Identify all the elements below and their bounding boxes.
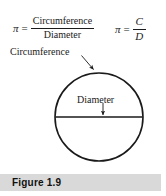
figure-caption-text: Figure 1.9 bbox=[0, 177, 61, 188]
circumference-leader-line bbox=[82, 56, 94, 70]
figure-1-9: π = Circumference Diameter π = C D Circu… bbox=[0, 0, 166, 196]
figure-caption-bar: Figure 1.9 bbox=[0, 174, 161, 191]
circle-diagram bbox=[0, 0, 166, 196]
